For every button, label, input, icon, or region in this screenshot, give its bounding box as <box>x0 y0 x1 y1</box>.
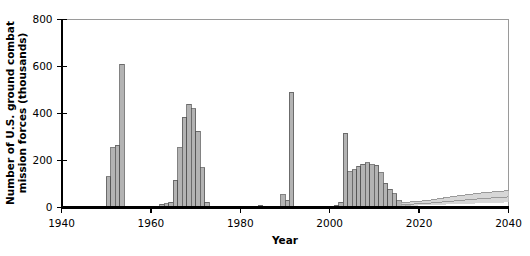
x-tick-label: 1940 <box>48 217 75 229</box>
y-tick-label: 200 <box>32 154 52 166</box>
bar <box>200 168 204 208</box>
y-tick-label: 0 <box>46 201 53 213</box>
bar <box>357 166 361 207</box>
bar <box>106 177 110 208</box>
bar-chart-svg: 0200400600800 194019601980200020202040 N… <box>0 0 530 256</box>
y-tick-label: 400 <box>32 107 52 119</box>
x-tick-label: 2040 <box>495 217 522 229</box>
bar <box>173 180 177 207</box>
y-axis-title-line-2: mission forces (thousands) <box>16 33 28 194</box>
bar <box>374 165 378 207</box>
y-tick-label: 600 <box>32 60 52 72</box>
x-axis-tick-labels: 194019601980200020202040 <box>48 217 522 229</box>
bar <box>196 131 200 207</box>
bar <box>178 148 182 208</box>
x-tick-label: 1980 <box>227 217 254 229</box>
bar <box>120 64 124 207</box>
plot-frame <box>62 20 509 208</box>
y-axis-tick-labels: 0200400600800 <box>32 13 52 213</box>
chart-figure: 0200400600800 194019601980200020202040 N… <box>0 0 530 256</box>
bar <box>365 163 369 208</box>
bar <box>115 145 119 207</box>
bar <box>289 92 293 207</box>
bar <box>343 133 347 207</box>
x-tick-label: 2000 <box>316 217 343 229</box>
bar <box>370 165 374 208</box>
bar <box>352 170 356 208</box>
bar <box>281 195 285 208</box>
y-axis-title-line-1: Number of U.S. ground combat <box>4 21 16 205</box>
bar <box>182 117 186 207</box>
bar <box>191 109 195 208</box>
x-tick-label: 2020 <box>406 217 433 229</box>
bar <box>111 148 115 208</box>
bar <box>379 173 383 208</box>
bar <box>392 194 396 208</box>
bar <box>388 189 392 207</box>
bar <box>187 104 191 207</box>
y-tick-label: 800 <box>32 13 52 25</box>
x-axis-title: Year <box>271 234 299 246</box>
bar <box>383 183 387 207</box>
x-tick-label: 1960 <box>138 217 165 229</box>
bar <box>361 164 365 207</box>
bar <box>348 172 352 208</box>
